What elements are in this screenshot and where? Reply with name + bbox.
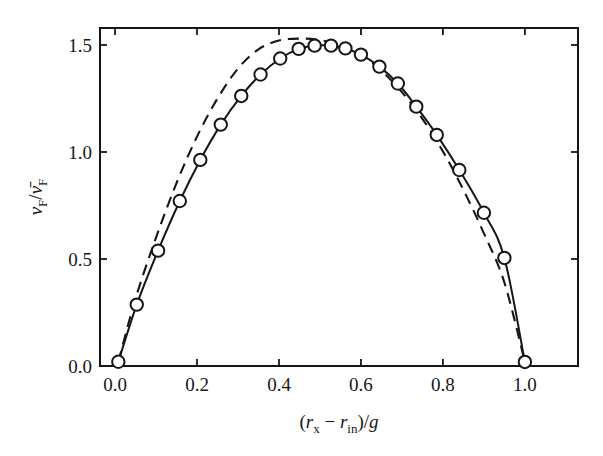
data-point-marker bbox=[308, 39, 320, 51]
data-point-marker bbox=[339, 42, 351, 54]
data-point-marker bbox=[325, 39, 337, 51]
x-tick-label: 0.4 bbox=[267, 374, 291, 395]
x-tick-label: 1.0 bbox=[513, 374, 537, 395]
x-tick-label: 0.8 bbox=[431, 374, 455, 395]
data-point-marker bbox=[131, 298, 143, 310]
x-title-minus: − bbox=[324, 411, 335, 432]
y-title-nu2-sub: F bbox=[35, 179, 50, 186]
data-point-marker bbox=[431, 129, 443, 141]
data-point-marker bbox=[453, 164, 465, 176]
data-point-marker bbox=[478, 207, 490, 219]
y-tick-label: 0.0 bbox=[68, 356, 92, 377]
x-title-g: g bbox=[369, 411, 379, 432]
x-tick-label: 0.2 bbox=[185, 374, 209, 395]
data-point-marker bbox=[112, 356, 124, 368]
data-point-marker bbox=[392, 77, 404, 89]
data-point-marker bbox=[152, 244, 164, 256]
data-point-marker bbox=[174, 195, 186, 207]
y-title-nu1-sub: F bbox=[35, 200, 50, 207]
figure-container: 0.00.20.40.60.81.0 0.00.51.01.5 (rx − ri… bbox=[0, 0, 603, 456]
y-tick-label: 1.0 bbox=[68, 142, 92, 163]
data-point-marker bbox=[373, 60, 385, 72]
data-point-marker bbox=[355, 48, 367, 60]
x-tick-label: 0.0 bbox=[103, 374, 127, 395]
x-title-r2-sub: in bbox=[347, 421, 358, 436]
data-point-marker bbox=[235, 90, 247, 102]
data-point-marker bbox=[498, 252, 510, 264]
data-point-marker bbox=[274, 52, 286, 64]
data-point-marker bbox=[254, 68, 266, 80]
data-point-marker bbox=[519, 356, 531, 368]
y-tick-label: 1.5 bbox=[68, 35, 92, 56]
data-point-marker bbox=[410, 100, 422, 112]
data-point-marker bbox=[215, 118, 227, 130]
plot-svg: 0.00.20.40.60.81.0 0.00.51.01.5 (rx − ri… bbox=[0, 0, 603, 456]
data-point-marker bbox=[292, 43, 304, 55]
x-tick-label: 0.6 bbox=[349, 374, 373, 395]
y-tick-label: 0.5 bbox=[68, 249, 92, 270]
data-point-marker bbox=[194, 154, 206, 166]
